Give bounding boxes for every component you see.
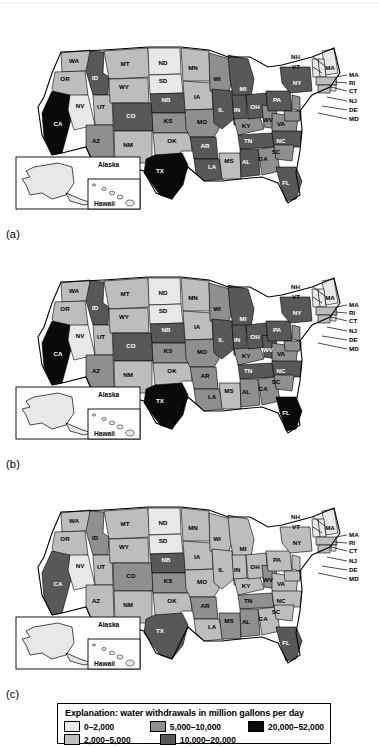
hawaii-island-3 (109, 191, 114, 195)
state-label-nd: ND (159, 519, 168, 526)
state-label-tx: TX (156, 167, 165, 174)
state-label-ga: GA (258, 385, 268, 392)
state-md (284, 571, 300, 581)
state-label-al: AL (242, 388, 250, 395)
inset-label-alaska: Alaska (98, 161, 120, 168)
state-label-id: ID (92, 534, 99, 541)
state-label-nv: NV (76, 102, 85, 109)
state-label-wa: WA (69, 287, 79, 294)
state-label-wy: WY (119, 543, 130, 550)
state-wy (109, 308, 149, 333)
state-label-tx: TX (156, 627, 165, 634)
state-label-ky: KY (242, 582, 251, 589)
hawaii-island-5 (126, 660, 134, 666)
state-label-fl: FL (282, 179, 290, 186)
state-label-il: IL (218, 566, 224, 573)
callout-label-ct: CT (349, 547, 357, 554)
state-label-ca: CA (54, 350, 63, 357)
state-label-la: LA (208, 393, 217, 400)
legend-row: 0–2,0005,000–10,00020,000–52,000 (64, 721, 324, 732)
legend-row: 2,000–5,00010,000–20,000 (64, 734, 324, 745)
state-label-oh: OH (250, 103, 260, 110)
map-panel-a: WAORCAIDNVUTAZMTWYCONMNDSDNBKSOKTXMNIAMO… (0, 8, 379, 238)
state-label-mn: MN (188, 64, 198, 71)
state-label-tx: TX (156, 397, 165, 404)
state-label-ar: AR (201, 602, 210, 609)
state-label-wy: WY (119, 313, 130, 320)
state-label-wy: WY (119, 83, 130, 90)
state-label-ny: NY (293, 79, 302, 86)
legend-item-c4: 10,000–20,000 (160, 734, 270, 745)
state-label-nm: NM (123, 141, 133, 148)
state-label-ks: KS (164, 117, 173, 124)
hawaii-island-1 (92, 184, 95, 186)
state-label-ks: KS (164, 347, 173, 354)
legend-rows: 0–2,0005,000–10,00020,000–52,0002,000–5,… (64, 721, 324, 745)
hawaii-island-3 (109, 651, 114, 655)
callout-label-nj: NJ (349, 557, 357, 564)
state-label-in: IN (234, 106, 241, 113)
state-label-wv: WV (263, 576, 274, 583)
state-label-oh: OH (250, 563, 260, 570)
callout-leader-de (322, 106, 347, 110)
legend-swatch-c4 (160, 734, 176, 745)
state-label-mt: MT (121, 290, 130, 297)
state-label-fl: FL (282, 409, 290, 416)
legend-item-c1: 0–2,000 (64, 721, 150, 732)
callout-label-nj: NJ (349, 97, 357, 104)
legend-swatch-c3 (150, 721, 166, 732)
scan-artifact (0, 3, 379, 4)
state-label-va: VA (277, 580, 286, 587)
state-label-ny: NY (293, 539, 302, 546)
callout-leader-nj (327, 97, 347, 101)
state-label-ar: AR (201, 142, 210, 149)
state-label-co: CO (126, 572, 135, 579)
state-label-ky: KY (242, 352, 251, 359)
hawaii-island-4 (117, 425, 123, 429)
state-label-nc: NC (277, 367, 286, 374)
state-label-ms: MS (224, 617, 233, 624)
hawaii-island-4 (117, 195, 123, 199)
state-label-or: OR (60, 535, 70, 542)
callout-label-de: DE (349, 336, 358, 343)
state-label-wa: WA (69, 57, 79, 64)
callout-label-ri: RI (349, 309, 355, 316)
legend-swatch-c1 (64, 721, 80, 732)
state-md (284, 341, 300, 351)
state-tx (144, 383, 188, 429)
hawaii-island-3 (109, 421, 114, 425)
state-label-ok: OK (167, 367, 177, 374)
state-wy (109, 538, 149, 563)
state-label-or: OR (60, 305, 70, 312)
state-label-wa: WA (69, 517, 79, 524)
callout-label-de: DE (349, 106, 358, 113)
state-label-az: AZ (92, 137, 100, 144)
legend-label-c1: 0–2,000 (84, 722, 114, 732)
callout-leader-md (318, 573, 347, 579)
state-label-az: AZ (92, 367, 100, 374)
state-label-fl: FL (282, 639, 290, 646)
state-label-va: VA (277, 120, 286, 127)
state-nj (292, 95, 300, 111)
state-label-nb: NB (162, 556, 171, 563)
state-label-or: OR (60, 75, 70, 82)
state-label-ny: NY (293, 309, 302, 316)
state-label-ms: MS (224, 387, 233, 394)
state-label-pa: PA (273, 556, 282, 563)
state-label-mt: MT (121, 60, 130, 67)
callout-label-de: DE (349, 566, 358, 573)
state-label-wi: WI (213, 535, 221, 542)
state-label-wv: WV (263, 346, 274, 353)
state-label-pa: PA (273, 96, 282, 103)
callout-leader-md (318, 113, 347, 119)
callout-leader-de (322, 566, 347, 570)
callout-label-md: MD (349, 115, 359, 122)
legend-swatch-c5 (248, 721, 264, 732)
state-label-ok: OK (167, 597, 177, 604)
legend-item-c2: 2,000–5,000 (64, 734, 160, 745)
state-label-sd: SD (159, 537, 168, 544)
legend-item-c5: 20,000–52,000 (248, 721, 324, 732)
state-label-nb: NB (162, 96, 171, 103)
state-tx (144, 613, 188, 659)
state-label-co: CO (126, 342, 135, 349)
